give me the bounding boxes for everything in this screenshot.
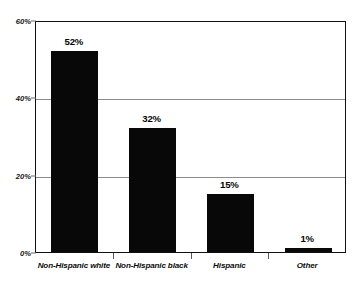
bar-chart: 52%32%15%1% 0%20%40%60% Non-Hispanic whi…: [0, 0, 359, 286]
x-category-label: Hispanic: [191, 261, 269, 270]
y-tick-mark: [31, 98, 36, 99]
x-tick-mark: [191, 253, 192, 259]
y-axis: 0%20%40%60%: [0, 21, 359, 253]
x-tick-mark: [268, 253, 269, 259]
y-tick-mark: [31, 175, 36, 176]
y-tick-mark: [31, 21, 36, 22]
y-tick-label: 60%: [0, 17, 31, 26]
x-category-label: Non-Hispanic black: [113, 261, 191, 270]
y-tick-label: 20%: [0, 171, 31, 180]
x-category-label: Other: [268, 261, 346, 270]
y-tick-label: 40%: [0, 94, 31, 103]
x-category-label: Non-Hispanic white: [35, 261, 113, 270]
x-tick-mark: [113, 253, 114, 259]
x-axis: Non-Hispanic whiteNon-Hispanic blackHisp…: [35, 253, 346, 286]
y-tick-label: 0%: [0, 249, 31, 258]
